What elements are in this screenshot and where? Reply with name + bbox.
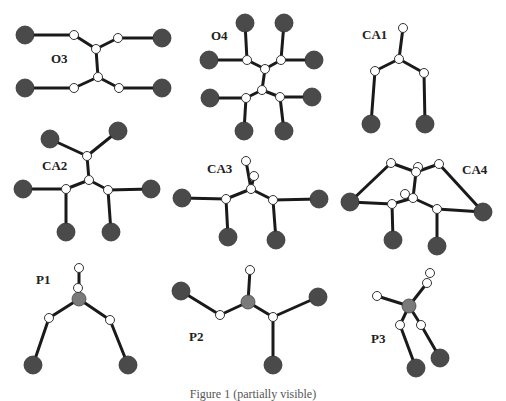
small-atom [70, 31, 79, 40]
heavy-atom [428, 237, 446, 255]
small-atom [104, 186, 113, 195]
small-atom [242, 157, 251, 166]
heavy-atom [24, 356, 42, 374]
small-atom [246, 266, 255, 275]
heavy-atom [303, 88, 321, 106]
heavy-atom [474, 203, 492, 221]
small-atom [242, 94, 251, 103]
heavy-atom [362, 115, 380, 133]
heavy-atom [309, 288, 327, 306]
small-atom [426, 269, 435, 278]
heavy-atom [172, 282, 190, 300]
small-atom [387, 159, 396, 168]
heavy-atom [200, 51, 218, 69]
small-atom [85, 176, 94, 185]
heavy-atom [16, 26, 34, 44]
small-atom [433, 205, 442, 214]
panel-label-o3: O3 [51, 52, 68, 65]
small-atom [399, 24, 408, 33]
heavy-atom [275, 122, 293, 140]
small-atom [222, 195, 231, 204]
small-atom [74, 284, 83, 293]
molecule-p3 [373, 269, 450, 378]
small-atom [423, 279, 432, 288]
small-atom [115, 84, 124, 93]
heavy-atom [153, 79, 171, 97]
panel-label-o4: O4 [211, 29, 228, 42]
small-atom [94, 73, 103, 82]
heavy-atom [267, 231, 285, 249]
heavy-atom [219, 228, 237, 246]
molecule-ca2 [14, 122, 160, 241]
heavy-atom [341, 193, 359, 211]
small-atom [388, 200, 397, 209]
panel-label-ca3: CA3 [207, 162, 232, 175]
molecule-o3 [16, 26, 171, 97]
small-atom [62, 185, 71, 194]
heavy-atom [275, 14, 293, 32]
panel-label-ca4: CA4 [462, 163, 487, 176]
small-atom [395, 55, 404, 64]
small-atom [277, 56, 286, 65]
small-atom [250, 172, 259, 181]
small-atom [435, 160, 444, 169]
heavy-atom [235, 122, 253, 140]
panel-label-p2: P2 [189, 330, 203, 343]
heavy-atom [153, 29, 171, 47]
heavy-atom [173, 189, 191, 207]
small-atom [420, 69, 429, 78]
molecule-p2 [172, 266, 327, 375]
small-atom [258, 86, 267, 95]
small-atom [114, 34, 123, 43]
small-atom [269, 196, 278, 205]
small-atom [276, 93, 285, 102]
center-atom [72, 292, 86, 306]
small-atom [269, 313, 278, 322]
heavy-atom [57, 223, 75, 241]
heavy-atom [431, 349, 449, 367]
small-atom [243, 56, 252, 65]
small-atom [83, 152, 92, 161]
molecule-ca3 [173, 157, 328, 250]
panel-label-ca2: CA2 [42, 159, 67, 172]
small-atom [371, 67, 380, 76]
heavy-atom [119, 356, 137, 374]
small-atom [409, 194, 418, 203]
small-atom [261, 65, 270, 74]
heavy-atom [142, 180, 160, 198]
small-atom [417, 321, 426, 330]
heavy-atom [305, 51, 323, 69]
heavy-atom [407, 359, 425, 377]
heavy-atom [264, 356, 282, 374]
heavy-atom [14, 180, 32, 198]
small-atom [70, 84, 79, 93]
panel-label-ca1: CA1 [362, 28, 387, 41]
heavy-atom [102, 223, 120, 241]
heavy-atom [201, 89, 219, 107]
heavy-atom [236, 14, 254, 32]
heavy-atom [41, 130, 59, 148]
small-atom [92, 45, 101, 54]
small-atom [216, 311, 225, 320]
panel-label-p1: P1 [36, 273, 50, 286]
panel-label-p3: P3 [371, 332, 385, 345]
center-atom [241, 295, 255, 309]
center-atom [402, 299, 416, 313]
small-atom [373, 292, 382, 301]
heavy-atom [16, 79, 34, 97]
heavy-atom [384, 231, 402, 249]
small-atom [106, 316, 115, 325]
small-atom [396, 321, 405, 330]
small-atom [45, 314, 54, 323]
figure-caption: Figure 1 (partially visible) [0, 388, 506, 400]
heavy-atom [416, 115, 434, 133]
small-atom [75, 264, 84, 273]
heavy-atom [109, 122, 127, 140]
heavy-atom [310, 190, 328, 208]
small-atom [412, 168, 421, 177]
small-atom [247, 185, 256, 194]
